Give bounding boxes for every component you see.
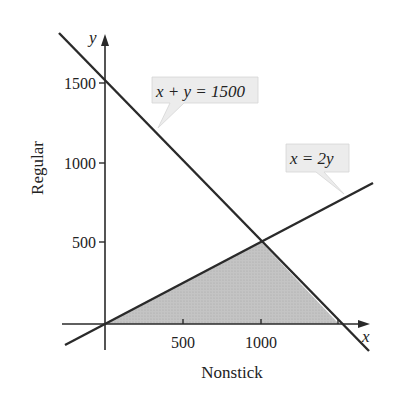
y-tick-1500: 1500: [64, 75, 96, 92]
callout-2-text: x = 2y: [289, 149, 334, 168]
y-axis-arrow-icon: [101, 34, 109, 46]
y-variable-label: y: [87, 28, 97, 47]
y-tick-500: 500: [72, 234, 96, 251]
y-axis-title: Regular: [28, 141, 47, 195]
callout-1-text: x + y = 1500: [155, 82, 246, 101]
x-variable-label: x: [361, 327, 370, 346]
y-tick-1000: 1000: [64, 155, 96, 172]
x-tick-500: 500: [171, 334, 195, 351]
callout-x-plus-y-1500: x + y = 1500: [152, 77, 258, 128]
linear-programming-chart: 500 1000 500 1000 1500 x y Nonstick Regu…: [0, 0, 402, 400]
x-axis-title: Nonstick: [201, 363, 263, 382]
callout-x-equals-2y: x = 2y: [286, 144, 349, 194]
x-tick-1000: 1000: [245, 334, 277, 351]
